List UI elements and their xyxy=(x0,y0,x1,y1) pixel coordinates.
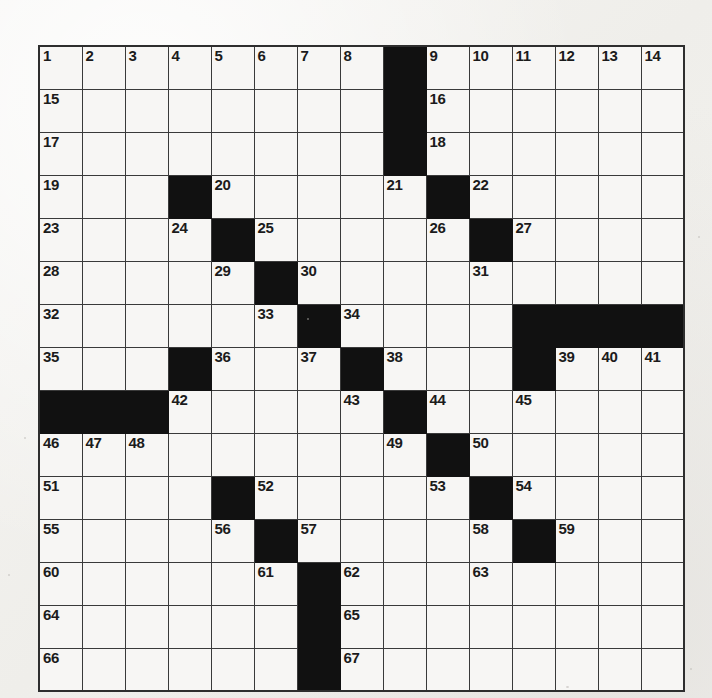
crossword-cell[interactable]: 65 xyxy=(340,605,383,648)
crossword-cell[interactable] xyxy=(254,132,297,175)
crossword-cell[interactable]: 2 xyxy=(82,46,125,89)
crossword-cell[interactable]: 38 xyxy=(383,347,426,390)
crossword-cell[interactable] xyxy=(125,476,168,519)
crossword-cell[interactable] xyxy=(555,605,598,648)
crossword-cell[interactable] xyxy=(598,175,641,218)
crossword-cell[interactable] xyxy=(512,132,555,175)
crossword-cell[interactable] xyxy=(254,433,297,476)
crossword-cell[interactable] xyxy=(297,175,340,218)
crossword-cell[interactable]: 3 xyxy=(125,46,168,89)
crossword-cell[interactable] xyxy=(82,347,125,390)
crossword-cell[interactable] xyxy=(383,519,426,562)
crossword-cell[interactable] xyxy=(168,433,211,476)
crossword-cell[interactable] xyxy=(555,433,598,476)
crossword-cell[interactable]: 46 xyxy=(39,433,82,476)
crossword-cell[interactable] xyxy=(469,89,512,132)
crossword-cell[interactable] xyxy=(340,519,383,562)
crossword-cell[interactable] xyxy=(168,562,211,605)
crossword-cell[interactable] xyxy=(168,519,211,562)
crossword-cell[interactable] xyxy=(125,175,168,218)
crossword-cell[interactable] xyxy=(82,562,125,605)
crossword-cell[interactable] xyxy=(426,519,469,562)
crossword-cell[interactable] xyxy=(555,390,598,433)
crossword-cell[interactable] xyxy=(211,648,254,691)
crossword-cell[interactable] xyxy=(469,132,512,175)
crossword-cell[interactable]: 19 xyxy=(39,175,82,218)
crossword-cell[interactable] xyxy=(555,132,598,175)
crossword-cell[interactable]: 18 xyxy=(426,132,469,175)
crossword-cell[interactable]: 59 xyxy=(555,519,598,562)
crossword-cell[interactable]: 5 xyxy=(211,46,254,89)
crossword-cell[interactable] xyxy=(641,218,684,261)
crossword-cell[interactable]: 16 xyxy=(426,89,469,132)
crossword-cell[interactable] xyxy=(641,390,684,433)
crossword-cell[interactable]: 53 xyxy=(426,476,469,519)
crossword-cell[interactable] xyxy=(383,476,426,519)
crossword-cell[interactable] xyxy=(82,519,125,562)
crossword-cell[interactable] xyxy=(469,390,512,433)
crossword-cell[interactable]: 43 xyxy=(340,390,383,433)
crossword-cell[interactable] xyxy=(555,562,598,605)
crossword-cell[interactable] xyxy=(125,132,168,175)
crossword-cell[interactable] xyxy=(469,648,512,691)
crossword-cell[interactable] xyxy=(641,519,684,562)
crossword-cell[interactable]: 36 xyxy=(211,347,254,390)
crossword-cell[interactable] xyxy=(82,132,125,175)
crossword-cell[interactable] xyxy=(598,390,641,433)
crossword-cell[interactable]: 40 xyxy=(598,347,641,390)
crossword-cell[interactable] xyxy=(641,433,684,476)
crossword-cell[interactable] xyxy=(469,605,512,648)
crossword-cell[interactable]: 54 xyxy=(512,476,555,519)
crossword-cell[interactable] xyxy=(555,89,598,132)
crossword-cell[interactable] xyxy=(168,304,211,347)
crossword-cell[interactable] xyxy=(555,218,598,261)
crossword-cell[interactable] xyxy=(125,519,168,562)
crossword-cell[interactable]: 6 xyxy=(254,46,297,89)
crossword-cell[interactable] xyxy=(82,175,125,218)
crossword-cell[interactable] xyxy=(168,89,211,132)
crossword-cell[interactable] xyxy=(598,519,641,562)
crossword-cell[interactable] xyxy=(254,390,297,433)
crossword-cell[interactable]: 26 xyxy=(426,218,469,261)
crossword-cell[interactable]: 57 xyxy=(297,519,340,562)
crossword-cell[interactable] xyxy=(211,304,254,347)
crossword-cell[interactable]: 49 xyxy=(383,433,426,476)
crossword-cell[interactable] xyxy=(211,89,254,132)
crossword-cell[interactable]: 56 xyxy=(211,519,254,562)
crossword-cell[interactable] xyxy=(598,218,641,261)
crossword-cell[interactable] xyxy=(641,132,684,175)
crossword-cell[interactable] xyxy=(340,132,383,175)
crossword-cell[interactable]: 39 xyxy=(555,347,598,390)
crossword-cell[interactable]: 64 xyxy=(39,605,82,648)
crossword-cell[interactable] xyxy=(383,218,426,261)
crossword-cell[interactable]: 21 xyxy=(383,175,426,218)
crossword-cell[interactable] xyxy=(383,304,426,347)
crossword-cell[interactable] xyxy=(426,304,469,347)
crossword-cell[interactable] xyxy=(254,347,297,390)
crossword-cell[interactable] xyxy=(211,390,254,433)
crossword-cell[interactable]: 17 xyxy=(39,132,82,175)
crossword-cell[interactable] xyxy=(383,648,426,691)
crossword-cell[interactable] xyxy=(168,132,211,175)
crossword-cell[interactable] xyxy=(254,89,297,132)
crossword-cell[interactable] xyxy=(297,132,340,175)
crossword-cell[interactable]: 15 xyxy=(39,89,82,132)
crossword-cell[interactable] xyxy=(598,261,641,304)
crossword-cell[interactable] xyxy=(82,261,125,304)
crossword-cell[interactable]: 45 xyxy=(512,390,555,433)
crossword-cell[interactable] xyxy=(82,605,125,648)
crossword-cell[interactable]: 62 xyxy=(340,562,383,605)
crossword-cell[interactable]: 63 xyxy=(469,562,512,605)
crossword-cell[interactable]: 25 xyxy=(254,218,297,261)
crossword-cell[interactable]: 27 xyxy=(512,218,555,261)
crossword-cell[interactable] xyxy=(598,562,641,605)
crossword-cell[interactable] xyxy=(82,476,125,519)
crossword-cell[interactable] xyxy=(469,347,512,390)
crossword-cell[interactable] xyxy=(125,89,168,132)
crossword-cell[interactable] xyxy=(512,562,555,605)
crossword-cell[interactable]: 9 xyxy=(426,46,469,89)
crossword-cell[interactable]: 50 xyxy=(469,433,512,476)
crossword-grid[interactable]: 1234567891011121314151617181920212223242… xyxy=(38,45,685,692)
crossword-cell[interactable]: 24 xyxy=(168,218,211,261)
crossword-cell[interactable] xyxy=(125,261,168,304)
